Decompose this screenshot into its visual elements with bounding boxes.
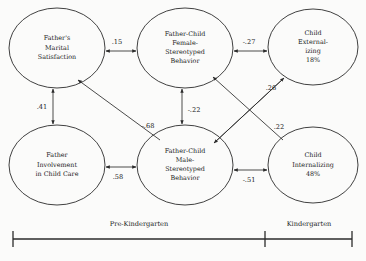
node-label-line: Father's xyxy=(44,34,70,42)
edge-male-stereotyped-to-internalizing: -.51 xyxy=(234,170,267,184)
edge-coefficient-label: -.51 xyxy=(243,176,256,184)
node-label-line: Internalizing xyxy=(292,161,334,169)
node-label-line: Behavior xyxy=(171,174,201,182)
timeline-label-kindergarten: Kindergarten xyxy=(287,220,332,228)
node-father-child-male-stereotyped-behavior[interactable]: Father-ChildMale-StereotypedBehavior xyxy=(137,125,233,205)
node-label-line: Father xyxy=(46,151,68,159)
node-label-line: Behavior xyxy=(171,57,201,65)
node-child-internalizing[interactable]: ChildInternalizing48% xyxy=(268,127,358,203)
edge-marital-to-involvement: .41 xyxy=(37,89,53,124)
node-label-line: Child xyxy=(304,151,321,159)
node-label-line: Marital xyxy=(45,44,69,52)
node-label-line: in Child Care xyxy=(36,170,79,178)
node-fathers-marital-satisfaction[interactable]: Father'sMaritalSatisfaction xyxy=(9,8,105,88)
node-father-involvement-in-child-care[interactable]: FatherInvolvementin Child Care xyxy=(9,125,105,205)
timeline-axis: Pre-KindergartenKindergarten xyxy=(13,220,352,247)
edge-coefficient-label: -.68 xyxy=(142,122,155,130)
edge-line xyxy=(78,80,160,140)
node-label-line: Father-Child xyxy=(165,147,206,155)
node-label-line: Child xyxy=(304,29,321,37)
edge-coefficient-label: .15 xyxy=(112,38,123,46)
node-label-line: Stereotyped xyxy=(165,165,205,173)
edge-female-stereotyped-to-male-stereotyped: -.22 xyxy=(182,89,200,124)
node-father-child-female-stereotyped-behavior[interactable]: Father-ChildFemale-StereotypedBehavior xyxy=(137,8,233,88)
edge-involvement-to-male-stereotyped: .58 xyxy=(106,167,136,181)
edge-externalizing-to-female-stereotyped: -.27 xyxy=(234,38,267,51)
node-label-line: 18% xyxy=(306,56,320,64)
edge-coefficient-label: -.27 xyxy=(243,38,256,46)
edge-coefficient-label: .22 xyxy=(274,123,285,131)
node-label-line: 48% xyxy=(306,170,320,178)
edge-coefficient-label: .41 xyxy=(37,103,48,111)
path-diagram-canvas: .15-.27.41-.22.58-.51-.68.26.22 Father's… xyxy=(0,0,366,261)
timeline-label-pre-kindergarten: Pre-Kindergarten xyxy=(110,220,169,228)
edge-coefficient-label: -.22 xyxy=(188,106,201,114)
edge-coefficient-label: .58 xyxy=(113,173,124,181)
nodes-layer: Father'sMaritalSatisfactionFather-ChildF… xyxy=(9,8,358,205)
node-label-line: Satisfaction xyxy=(38,53,76,61)
node-label-line: Female- xyxy=(172,39,198,47)
path-diagram-page: .15-.27.41-.22.58-.51-.68.26.22 Father's… xyxy=(0,0,366,261)
node-label-line: Stereotyped xyxy=(165,48,205,56)
edge-male-stereotyped-to-marital: -.68 xyxy=(78,80,160,140)
node-label-line: External- xyxy=(298,38,328,46)
node-child-externalizing[interactable]: ChildExternal-izing18% xyxy=(268,9,358,85)
node-label-line: Father-Child xyxy=(165,30,206,38)
node-label-line: Involvement xyxy=(37,161,77,169)
edge-marital-to-female-stereotyped: .15 xyxy=(106,38,136,51)
node-label-line: Male- xyxy=(176,156,194,164)
node-label-line: izing xyxy=(305,47,321,55)
